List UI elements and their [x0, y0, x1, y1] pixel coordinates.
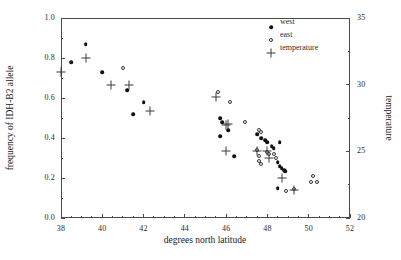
chart-legend: westeasttemperature — [258, 16, 350, 56]
data-point-east — [228, 100, 232, 104]
data-point-temperature — [290, 186, 299, 195]
x-axis-tick-label: 40 — [90, 224, 114, 233]
data-point-east — [121, 66, 125, 70]
y2-axis-tick-label: 35 — [357, 13, 379, 22]
data-point-west — [70, 60, 74, 64]
y2-axis-tick-label: 30 — [357, 80, 379, 89]
data-point-west — [218, 134, 222, 138]
legend-label: west — [280, 16, 295, 28]
x-axis-title: degrees north latitude — [164, 235, 246, 245]
data-point-east — [259, 162, 263, 166]
x-axis-tick-label: 38 — [49, 224, 73, 233]
y-axis-tick-label: 0.4 — [27, 133, 55, 142]
data-point-temperature — [224, 120, 233, 129]
data-point-east — [311, 174, 315, 178]
y-axis-tick-label: 0.0 — [27, 213, 55, 222]
data-point-temperature — [106, 81, 115, 90]
chart-figure: frequency of IDH-B2 allele temperature d… — [0, 0, 401, 260]
data-point-west — [100, 70, 104, 74]
x-axis-tick-label: 50 — [297, 224, 321, 233]
data-point-west — [266, 140, 270, 144]
legend-item-west: west — [258, 16, 350, 28]
legend-label: east — [280, 29, 292, 41]
data-point-east — [284, 189, 288, 193]
y-axis-tick-label: 0.2 — [27, 173, 55, 182]
data-point-west — [283, 169, 287, 173]
data-point-east — [243, 120, 247, 124]
data-point-west — [84, 42, 88, 46]
x-axis-tick-label: 44 — [173, 224, 197, 233]
data-point-west — [278, 140, 282, 144]
data-point-east — [259, 130, 263, 134]
data-point-east — [309, 180, 313, 184]
y-axis-left-title: frequency of IDH-B2 allele — [5, 66, 15, 171]
data-point-west — [255, 132, 259, 136]
y-axis-right-title: temperature — [384, 95, 394, 140]
y-axis-tick-label: 0.8 — [27, 53, 55, 62]
data-point-temperature — [222, 147, 231, 156]
data-point-west — [259, 136, 263, 140]
data-point-temperature — [81, 54, 90, 63]
data-point-temperature — [211, 93, 220, 102]
y-axis-tick-label: 0.6 — [27, 93, 55, 102]
data-point-west — [272, 146, 276, 150]
data-point-west — [276, 186, 280, 190]
data-point-temperature — [145, 107, 154, 116]
legend-swatch — [267, 49, 276, 58]
legend-marker-plus-icon — [266, 48, 276, 58]
legend-item-east: east — [258, 29, 350, 41]
data-point-temperature — [277, 174, 286, 183]
x-axis-tick-label: 48 — [255, 224, 279, 233]
data-point-west — [142, 100, 146, 104]
legend-item-temperature: temperature — [258, 42, 350, 54]
y2-axis-tick-label: 25 — [357, 146, 379, 155]
data-point-temperature — [125, 80, 134, 89]
y2-axis-tick-label: 20 — [357, 213, 379, 222]
data-point-temperature — [253, 147, 262, 156]
x-axis-tick-label: 52 — [338, 224, 362, 233]
data-point-east — [315, 180, 319, 184]
data-point-temperature — [57, 68, 66, 77]
data-point-west — [131, 112, 135, 116]
x-axis-tick-label: 42 — [132, 224, 156, 233]
data-point-east — [274, 156, 278, 160]
x-axis-tick-label: 46 — [214, 224, 238, 233]
data-point-temperature — [265, 154, 274, 163]
y-axis-tick-label: 1.0 — [27, 13, 55, 22]
data-point-west — [233, 154, 237, 158]
legend-label: temperature — [280, 42, 318, 54]
